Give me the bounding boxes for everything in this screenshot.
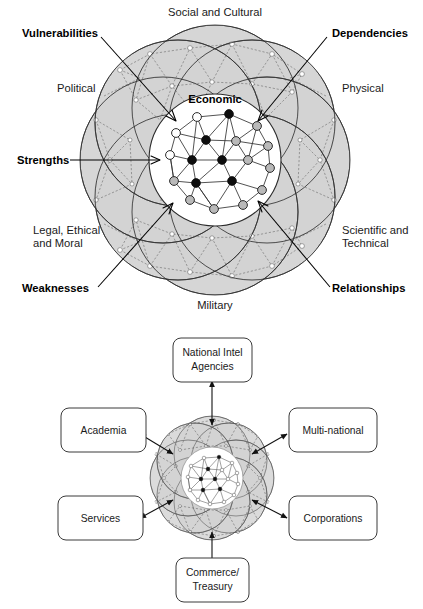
box-label-line2: Treasury bbox=[192, 581, 233, 592]
box-commerce-treasury[interactable]: Commerce/ Treasury bbox=[176, 558, 249, 602]
box-label-line1: Multi-national bbox=[302, 425, 363, 436]
callout-weaknesses: Weaknesses bbox=[22, 282, 89, 294]
callout-strengths: Strengths bbox=[17, 154, 69, 166]
label-legal-ethical: Legal, Ethical bbox=[33, 224, 100, 236]
label-technical: Technical bbox=[342, 237, 389, 249]
top-center-label: Economic bbox=[188, 93, 241, 105]
core-disc-small bbox=[181, 447, 243, 509]
figure-root: Economic Social and Cultural Physical Sc… bbox=[0, 0, 423, 609]
box-label-line1: Academia bbox=[81, 425, 127, 436]
label-scientific-and: Scientific and bbox=[342, 224, 409, 236]
box-services[interactable]: Services bbox=[58, 496, 143, 540]
callout-dependencies: Dependencies bbox=[332, 27, 408, 39]
box-label-line1: Corporations bbox=[304, 513, 363, 524]
box-label-line2: Agencies bbox=[191, 361, 233, 372]
box-corporations[interactable]: Corporations bbox=[289, 496, 377, 540]
label-physical: Physical bbox=[342, 82, 384, 94]
label-political: Political bbox=[57, 82, 96, 94]
box-rect[interactable] bbox=[173, 338, 252, 382]
top-diagram: Economic Social and Cultural Physical Sc… bbox=[0, 0, 423, 320]
box-academia[interactable]: Academia bbox=[61, 408, 146, 452]
callout-vulnerabilities: Vulnerabilities bbox=[22, 27, 98, 39]
callout-relationships: Relationships bbox=[332, 282, 405, 294]
label-military: Military bbox=[197, 299, 233, 311]
box-label-line1: National Intel bbox=[182, 347, 242, 358]
box-label-line1: Services bbox=[81, 513, 120, 524]
bottom-diagram: National Intel Agencies Multi-national C… bbox=[0, 320, 423, 609]
box-rect[interactable] bbox=[176, 558, 249, 602]
label-and-moral: and Moral bbox=[33, 237, 83, 249]
box-national-intel-agencies[interactable]: National Intel Agencies bbox=[173, 338, 252, 382]
label-social-and-cultural: Social and Cultural bbox=[168, 6, 262, 18]
box-label-line1: Commerce/ bbox=[186, 567, 239, 578]
box-multi-national[interactable]: Multi-national bbox=[289, 408, 377, 452]
